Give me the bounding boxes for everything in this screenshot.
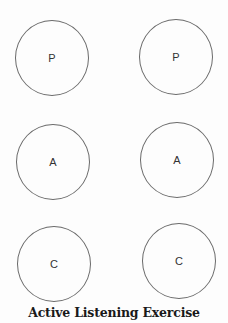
circle-p-left: P (15, 20, 89, 96)
circle-a-right: A (140, 122, 214, 198)
circle-c-left: C (17, 226, 91, 302)
diagram-title: Active Listening Exercise (0, 305, 228, 320)
circle-a-left: A (16, 124, 90, 200)
circle-label: P (48, 52, 55, 64)
circle-label: A (173, 154, 180, 166)
diagram-canvas: P P A A C C Active Listening Exercise (0, 0, 228, 323)
circle-label: C (175, 255, 183, 267)
circle-label: C (50, 258, 58, 270)
circle-label: A (49, 156, 56, 168)
circle-p-right: P (139, 19, 213, 95)
circle-c-right: C (142, 223, 216, 299)
circle-label: P (172, 51, 179, 63)
